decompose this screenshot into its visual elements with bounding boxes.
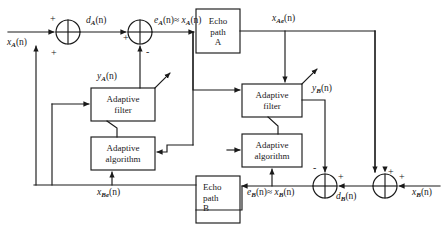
signal-label-yb: yB(n) <box>312 84 332 95</box>
adaptation-arrow-b <box>302 69 317 84</box>
summer-b2-sign-right: + <box>399 172 405 182</box>
wire-ea-to-alg-a <box>157 145 193 152</box>
diagram-canvas: Echo path A Adaptive filter Adaptive alg… <box>0 0 448 230</box>
summer-b2-sign-top: + <box>388 167 394 177</box>
signal-label-xa: xA(n) <box>7 38 27 49</box>
echo-path-b-label: Echo path B <box>203 182 243 214</box>
summer-a2-sign-bottom: - <box>146 47 149 57</box>
summer-b1-sign-top: - <box>313 163 316 173</box>
signal-label-ea-approx-xa: eA(n)≈ xA(n) <box>154 16 202 27</box>
wire-filter-b-to-alg-b <box>268 117 278 134</box>
signal-label-xbe: xBe(n) <box>97 188 120 199</box>
summer-b1-circle <box>313 174 337 198</box>
adaptive-algorithm-b-label: Adaptive algorithm <box>242 140 302 161</box>
signal-label-ya: yA(n) <box>97 72 117 83</box>
adaptive-filter-a-label: Adaptive filter <box>91 94 155 115</box>
summer-b2-circle <box>373 174 397 198</box>
signal-label-db: dB(n) <box>336 192 357 203</box>
echo-path-a-label: Echo path A <box>196 16 240 48</box>
signal-label-xae: xAe(n) <box>272 14 295 25</box>
adaptation-arrow-a <box>155 73 170 88</box>
summer-a1-sign-left: + <box>50 14 56 24</box>
summer-b1-sign-right: + <box>338 172 344 182</box>
wire-filter-a-to-alg-a <box>107 121 117 137</box>
summer-a1-circle <box>56 20 80 44</box>
summer-a2-sign-left: + <box>123 33 129 43</box>
summer-a2-circle <box>128 20 152 44</box>
summer-a1-sign-bottom: + <box>51 48 57 58</box>
signal-label-eb-approx-xb: eB(n)≈ xB(n) <box>247 188 295 199</box>
signal-label-xb: xB(n) <box>412 188 432 199</box>
adaptive-algorithm-a-label: Adaptive algorithm <box>91 143 155 164</box>
adaptive-filter-b-label: Adaptive filter <box>242 90 302 111</box>
signal-label-da: dA(n) <box>86 16 107 27</box>
